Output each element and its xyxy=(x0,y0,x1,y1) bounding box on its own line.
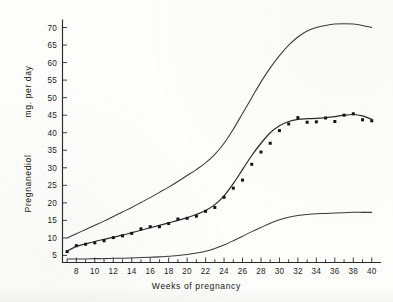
curve-layer xyxy=(67,24,372,259)
data-point xyxy=(75,244,78,247)
data-point xyxy=(186,217,189,220)
x-tick-label: 8 xyxy=(74,267,79,276)
data-point xyxy=(315,120,318,123)
data-point xyxy=(343,114,346,117)
x-tick-label: 26 xyxy=(238,267,248,276)
axis-spine xyxy=(63,20,382,263)
data-point xyxy=(324,117,327,120)
data-point xyxy=(84,243,87,246)
data-point xyxy=(158,225,161,228)
y-tick-label: 50 xyxy=(47,94,57,103)
x-tick-label: 40 xyxy=(367,267,377,276)
data-point xyxy=(103,239,106,242)
y-tick-label: 70 xyxy=(47,24,57,33)
y-tick-label: 20 xyxy=(47,199,57,208)
x-tick-label: 38 xyxy=(349,267,359,276)
x-tick-label: 22 xyxy=(201,267,211,276)
data-point xyxy=(149,225,152,228)
data-point xyxy=(250,163,253,166)
data-point xyxy=(176,218,179,221)
data-point xyxy=(204,210,207,213)
y-tick-label: 65 xyxy=(47,41,57,50)
x-tick-label: 20 xyxy=(182,267,192,276)
x-tick-label: 36 xyxy=(330,267,340,276)
x-tick-label: 14 xyxy=(127,267,137,276)
x-tick-label: 12 xyxy=(109,267,119,276)
data-point xyxy=(167,222,170,225)
y-tick-label: 45 xyxy=(47,111,57,120)
chart-figure: 5101520253035404550556065708101214161820… xyxy=(0,0,393,302)
scatter-point-layer xyxy=(66,112,374,253)
y-axis-title: Pregnanediol xyxy=(23,155,33,213)
data-point xyxy=(241,179,244,182)
y-tick-label: 60 xyxy=(47,59,57,68)
y-tick-label: 15 xyxy=(47,216,57,225)
data-point xyxy=(259,151,262,154)
data-point xyxy=(306,121,309,124)
data-point xyxy=(361,118,364,121)
data-point xyxy=(93,241,96,244)
y-tick-label: 40 xyxy=(47,129,57,138)
upper-limit-curve xyxy=(67,24,372,238)
x-tick-label: 16 xyxy=(145,267,155,276)
x-tick-label: 28 xyxy=(256,267,266,276)
x-tick-label: 34 xyxy=(312,267,322,276)
data-point xyxy=(287,122,290,125)
y-tick-label: 35 xyxy=(47,146,57,155)
mean-curve xyxy=(67,114,372,251)
data-point xyxy=(269,142,272,145)
y-tick-label: 10 xyxy=(47,234,57,243)
y-tick-label: 5 xyxy=(52,251,57,260)
y-tick-label: 55 xyxy=(47,76,57,85)
data-point xyxy=(232,187,235,190)
y-axis-units-title: mg. per day xyxy=(23,65,33,117)
x-tick-label: 30 xyxy=(275,267,285,276)
x-tick-label: 10 xyxy=(90,267,100,276)
data-point xyxy=(370,119,373,122)
data-point xyxy=(223,196,226,199)
data-point xyxy=(296,116,299,119)
x-tick-label: 18 xyxy=(164,267,174,276)
axis-layer xyxy=(63,20,382,263)
x-tick-label: 32 xyxy=(293,267,303,276)
data-point xyxy=(121,234,124,237)
data-point xyxy=(195,215,198,218)
data-point xyxy=(213,206,216,209)
data-point xyxy=(130,232,133,235)
data-point xyxy=(66,250,69,253)
data-point xyxy=(139,227,142,230)
data-point xyxy=(112,236,115,239)
x-axis-title: Weeks of pregnancy xyxy=(152,281,241,291)
y-tick-label: 30 xyxy=(47,164,57,173)
lower-limit-curve xyxy=(67,212,372,259)
data-point xyxy=(278,129,281,132)
axis-label-layer: 5101520253035404550556065708101214161820… xyxy=(23,24,377,291)
x-tick-label: 24 xyxy=(219,267,229,276)
data-point xyxy=(333,120,336,123)
data-point xyxy=(352,112,355,115)
pregnanediol-chart-plot: 5101520253035404550556065708101214161820… xyxy=(0,0,393,302)
y-tick-label: 25 xyxy=(47,181,57,190)
